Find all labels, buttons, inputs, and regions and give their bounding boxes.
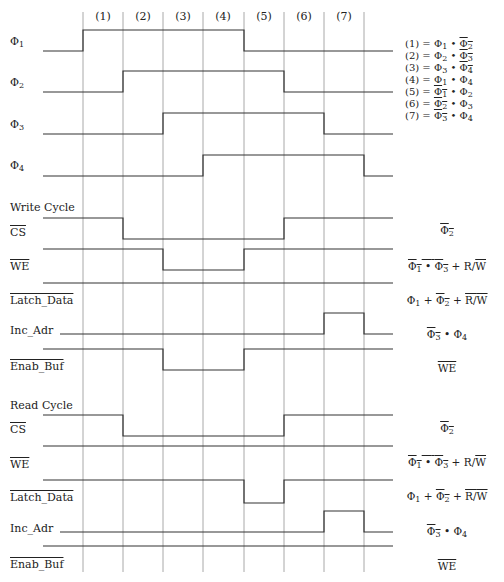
- eq-a-sub: 3: [442, 114, 447, 123]
- waveform-read-cs: [43, 415, 393, 436]
- write-signal-latch-data: Latch_Data: [10, 294, 73, 307]
- eq-b: Φ: [460, 50, 468, 61]
- eq-a: Φ: [434, 110, 442, 121]
- phi-symbol: Φ: [407, 294, 416, 306]
- rw-r: R/: [465, 294, 476, 306]
- subscript: 2: [449, 229, 454, 238]
- write-signal-inc-adr: Inc_Adr: [10, 324, 53, 337]
- read-cycle-title: Read Cycle: [10, 399, 73, 412]
- rw-w: W: [477, 490, 488, 502]
- rw-w: W: [477, 294, 488, 306]
- phi-symbol: Φ: [435, 456, 444, 468]
- waveform-phi4: [43, 155, 393, 176]
- eq-lhs: (3) =: [405, 62, 431, 73]
- eq-lhs: (7) =: [405, 110, 431, 121]
- subscript: 4: [19, 164, 24, 173]
- eq-a: Φ: [434, 98, 442, 109]
- write-expr-latch-data: Φ1 + Φ2 + R/W: [392, 294, 502, 308]
- eq-op: •: [450, 98, 456, 109]
- rw-w: W: [475, 260, 486, 272]
- phi-symbol: Φ: [453, 525, 462, 537]
- subscript: 2: [444, 299, 449, 308]
- eq-a: Φ: [434, 38, 442, 49]
- subscript: 4: [462, 530, 467, 539]
- eq-lhs: (1) =: [405, 38, 431, 49]
- eq-b: Φ: [460, 110, 468, 121]
- read-signal-inc-adr: Inc_Adr: [10, 522, 53, 535]
- waveform-write-we: [43, 249, 393, 270]
- read-signal-enab-buf: Enab_Buf: [10, 558, 63, 571]
- eq-a: Φ: [434, 50, 442, 61]
- eq-a: Φ: [434, 74, 442, 85]
- subscript: 1: [415, 299, 420, 308]
- read-signal-cs: CS: [10, 423, 26, 436]
- phase-label-3: (3): [163, 10, 203, 23]
- eq-op: •: [450, 74, 456, 85]
- write-signal-we: WE: [10, 260, 29, 273]
- clock-label-phi1: Φ1: [10, 35, 24, 51]
- read-signal-latch-data: Latch_Data: [10, 491, 73, 504]
- rw-r: R/: [465, 490, 476, 502]
- clock-label-phi3: Φ3: [10, 118, 24, 134]
- subscript: 3: [443, 461, 448, 470]
- subscript: 3: [435, 530, 440, 539]
- clock-label-phi4: Φ4: [10, 159, 24, 175]
- rw-r: R/: [464, 260, 475, 272]
- subscript: 1: [417, 265, 422, 274]
- waveforms: [43, 30, 393, 546]
- phase-label-7: (7): [324, 10, 364, 23]
- clock-label-phi2: Φ2: [10, 76, 24, 92]
- rw-r: R/: [464, 456, 475, 468]
- eq-lhs: (6) =: [405, 98, 431, 109]
- subscript: 3: [443, 265, 448, 274]
- we-signal: WE: [438, 362, 456, 374]
- phi-symbol: Φ: [10, 159, 19, 172]
- subscript: 3: [435, 333, 440, 342]
- write-signal-enab-buf: Enab_Buf: [10, 360, 63, 373]
- eq-b: Φ: [460, 86, 468, 97]
- phase-label-2: (2): [123, 10, 163, 23]
- and-op: •: [425, 456, 431, 468]
- or-op: +: [452, 260, 461, 272]
- and-op: •: [444, 328, 450, 340]
- eq-op: •: [450, 110, 456, 121]
- eq-lhs: (4) =: [405, 74, 431, 85]
- eq-b: Φ: [460, 38, 468, 49]
- write-expr-cs: Φ2: [392, 224, 502, 238]
- waveform-phi2: [43, 71, 393, 92]
- subscript: 2: [444, 495, 449, 504]
- phase-label-5: (5): [244, 10, 284, 23]
- write-expr-inc-adr: Φ3 • Φ4: [392, 328, 502, 342]
- waveform-phi1: [43, 30, 393, 51]
- waveform-phi3: [43, 113, 393, 134]
- phi-symbol: Φ: [440, 422, 449, 434]
- phi-symbol: Φ: [10, 118, 19, 131]
- read-signal-we: WE: [10, 458, 29, 471]
- eq-op: •: [450, 86, 456, 97]
- read-expr-inc-adr: Φ3 • Φ4: [392, 525, 502, 539]
- or-op: +: [452, 456, 461, 468]
- phi-symbol: Φ: [10, 35, 19, 48]
- waveform-read-latch-data: [43, 480, 393, 503]
- we-signal: WE: [438, 560, 456, 572]
- eq-a: Φ: [434, 62, 442, 73]
- eq-lhs: (5) =: [405, 86, 431, 97]
- rw-w: W: [475, 456, 486, 468]
- write-expr-we: Φ1 • Φ3 + R/W: [392, 260, 502, 274]
- subscript: 1: [417, 461, 422, 470]
- write-expr-enab-buf: WE: [392, 362, 502, 374]
- phase-gridlines: [83, 12, 364, 572]
- eq-lhs: (2) =: [405, 50, 431, 61]
- phi-symbol: Φ: [440, 224, 449, 236]
- eq-op: •: [450, 50, 456, 61]
- phi-symbol: Φ: [453, 328, 462, 340]
- eq-b: Φ: [460, 74, 468, 85]
- eq-b: Φ: [460, 62, 468, 73]
- read-expr-cs: Φ2: [392, 422, 502, 436]
- or-op: +: [453, 490, 462, 502]
- eq-b: Φ: [460, 98, 468, 109]
- subscript: 1: [19, 40, 24, 49]
- phi-symbol: Φ: [407, 490, 416, 502]
- read-expr-enab-buf: WE: [392, 560, 502, 572]
- phi-symbol: Φ: [408, 260, 417, 272]
